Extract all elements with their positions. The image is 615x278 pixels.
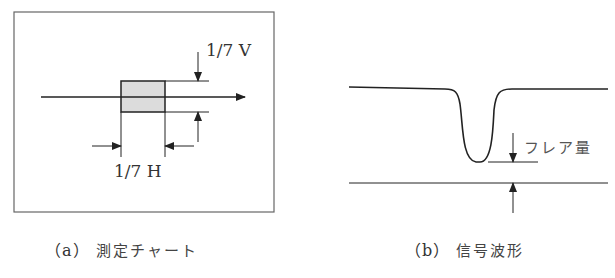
caption-b: （b） 信号波形 [405,237,524,261]
caption-a: （a） 測定チャート [45,237,198,261]
flare-amount-label: フレア量 [524,136,592,157]
caption-a-letter: （a） [45,241,90,260]
h-dimension-label: 1/7 H [114,161,162,181]
caption-b-letter: （b） [405,241,450,260]
caption-a-text: 測定チャート [96,242,198,260]
v-dimension-label: 1/7 V [206,40,251,60]
caption-b-text: 信号波形 [456,242,524,260]
